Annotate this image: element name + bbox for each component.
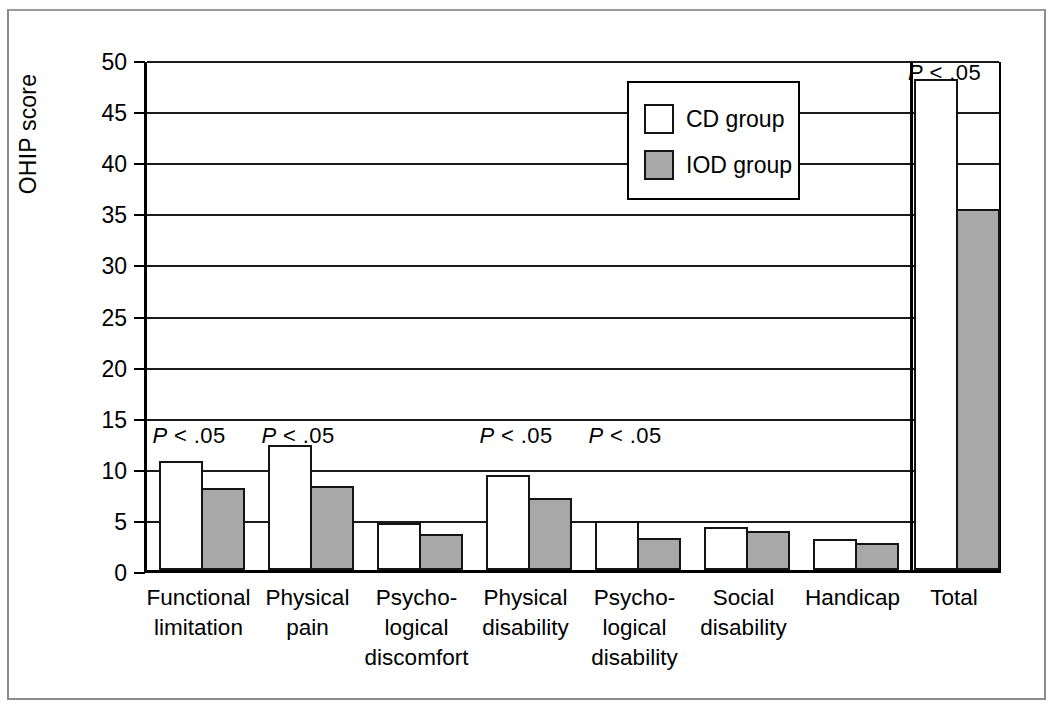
p-value-annotation: P < .05 <box>262 423 335 449</box>
bar-iod-group <box>419 534 463 570</box>
gridline <box>147 112 999 114</box>
total-group-separator <box>910 62 913 570</box>
y-axis-title: OHIP score <box>6 19 50 249</box>
p-value-annotation: P < .05 <box>153 423 226 449</box>
x-axis-category-labels: FunctionallimitationPhysicalpainPsycho-l… <box>144 583 1001 693</box>
y-axis-tick-label: 30 <box>67 253 127 280</box>
bar-cd-group <box>704 527 748 570</box>
legend-swatch-iod-group <box>644 150 674 180</box>
x-axis-category-label-line: discomfort <box>327 643 507 673</box>
y-axis-tick <box>134 163 145 165</box>
y-axis-tick-label: 25 <box>67 304 127 331</box>
y-axis-tick-label: 20 <box>67 355 127 382</box>
bar-cd-group <box>377 523 421 570</box>
bar-cd-group <box>813 539 857 570</box>
bar-iod-group <box>637 538 681 570</box>
bar-cd-group <box>268 445 312 570</box>
y-axis-tick <box>134 265 145 267</box>
y-axis-tick-label: 10 <box>67 457 127 484</box>
x-axis-category-label-line: disability <box>654 613 834 643</box>
x-axis-category-label-line: disability <box>545 643 725 673</box>
bar-iod-group <box>201 488 245 570</box>
y-axis-tick-label: 40 <box>67 151 127 178</box>
plot-area: 50454035302520151050P < .05P < .05P < .0… <box>144 62 1001 573</box>
figure-container: OHIP score 50454035302520151050P < .05P … <box>0 0 1056 724</box>
y-axis-tick <box>134 214 145 216</box>
x-axis-category-label: Total <box>864 583 1044 613</box>
y-axis-tick-label: 15 <box>67 406 127 433</box>
y-axis-tick-label: 45 <box>67 100 127 127</box>
y-axis-tick <box>134 368 145 370</box>
y-axis-tick <box>134 419 145 421</box>
bar-cd-group <box>595 521 639 570</box>
y-axis-tick <box>134 470 145 472</box>
y-axis-tick <box>134 112 145 114</box>
y-axis-tick-label: 50 <box>67 49 127 76</box>
legend-item-cd-group: CD group <box>644 96 798 142</box>
gridline <box>147 317 999 319</box>
x-axis-category-label-line: Total <box>864 583 1044 613</box>
y-axis-tick <box>134 61 145 63</box>
gridline <box>147 61 999 63</box>
legend-swatch-cd-group <box>644 104 674 134</box>
bar-cd-group <box>914 79 958 570</box>
y-axis-tick <box>134 572 145 574</box>
y-axis-tick <box>134 317 145 319</box>
y-axis-tick <box>134 521 145 523</box>
p-value-annotation: P < .05 <box>480 423 553 449</box>
p-value-annotation: P < .05 <box>908 60 981 86</box>
bar-cd-group <box>486 475 530 570</box>
gridline <box>147 265 999 267</box>
p-value-annotation: P < .05 <box>589 423 662 449</box>
y-axis-tick-label: 35 <box>67 202 127 229</box>
gridline <box>147 163 999 165</box>
legend-item-iod-group: IOD group <box>644 142 798 188</box>
gridline <box>147 214 999 216</box>
bar-iod-group <box>310 486 354 570</box>
bar-iod-group <box>956 209 1000 570</box>
chart-legend: CD group IOD group <box>627 81 800 200</box>
y-axis-tick-label: 5 <box>67 508 127 535</box>
gridline <box>147 368 999 370</box>
bar-iod-group <box>746 531 790 570</box>
bar-cd-group <box>159 461 203 570</box>
bar-iod-group <box>855 543 899 570</box>
legend-label-cd-group: CD group <box>686 106 784 133</box>
gridline <box>147 419 999 421</box>
legend-label-iod-group: IOD group <box>686 152 792 179</box>
bar-iod-group <box>528 498 572 570</box>
